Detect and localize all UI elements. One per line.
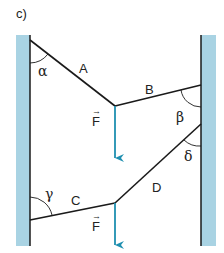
label-beta: β xyxy=(176,109,184,125)
angle-arc-delta xyxy=(184,140,201,146)
label-delta: δ xyxy=(184,148,192,164)
label-rope-b: B xyxy=(145,82,154,97)
label-rope-c: C xyxy=(71,193,80,208)
label-rope-d: D xyxy=(152,180,161,195)
right-wall xyxy=(201,35,216,246)
label-force-upper: F xyxy=(92,114,100,129)
angle-arc-beta xyxy=(181,90,201,107)
left-wall xyxy=(16,35,30,246)
figure-label: c) xyxy=(16,6,27,21)
label-gamma: γ xyxy=(45,186,53,202)
force-diagram: c) A B α β → F C D γ δ → F xyxy=(0,0,224,253)
angle-arc-alpha xyxy=(30,54,48,63)
label-alpha: α xyxy=(38,63,48,79)
label-rope-a: A xyxy=(79,61,88,76)
label-force-lower: F xyxy=(92,219,100,234)
